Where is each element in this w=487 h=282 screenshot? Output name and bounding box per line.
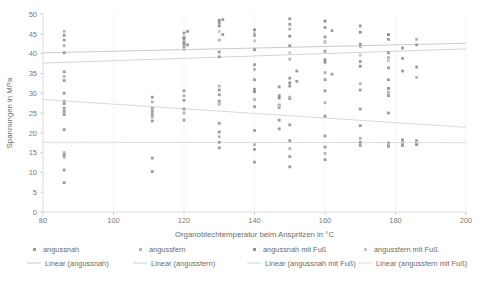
legend-marker-swatch <box>33 248 36 251</box>
data-point <box>387 94 390 97</box>
data-point <box>387 142 390 145</box>
data-point <box>359 45 362 48</box>
data-point <box>253 63 256 66</box>
data-point <box>218 103 221 106</box>
x-tick-labels: 80100120140160180200 <box>39 216 472 225</box>
data-point <box>401 141 404 144</box>
scatter-plot: 80100120140160180200 0510152025303540455… <box>0 0 487 282</box>
data-point <box>151 170 154 173</box>
data-point <box>401 57 404 60</box>
data-point <box>324 158 327 161</box>
data-point <box>288 28 291 31</box>
axis-lines <box>40 14 466 215</box>
series-angussfern <box>63 28 418 159</box>
data-point <box>218 131 221 134</box>
data-point <box>218 39 221 42</box>
data-point <box>63 92 66 95</box>
data-point <box>63 44 66 47</box>
data-point <box>359 24 362 27</box>
data-point <box>63 112 66 115</box>
data-point <box>415 141 418 144</box>
x-tick-label: 100 <box>107 216 120 225</box>
x-tick-label: 200 <box>460 216 473 225</box>
legend-item-line[interactable]: Linear (angussnah) <box>27 259 109 268</box>
data-point <box>288 35 291 38</box>
data-point <box>218 89 221 92</box>
legend-item-marker[interactable]: angussnah mit Fuß <box>253 245 327 254</box>
data-point <box>278 127 281 130</box>
data-point <box>359 31 362 34</box>
data-point <box>63 75 66 78</box>
data-point <box>218 19 221 22</box>
legend-item-marker[interactable]: angussnah <box>33 245 79 254</box>
series-angussnah-mit-fu- <box>183 19 418 145</box>
legend-item-line[interactable]: Linear (angussfern) <box>133 259 215 268</box>
data-point <box>359 89 362 92</box>
data-point <box>288 96 291 99</box>
legend-item-marker[interactable]: angussfern mit Fuß <box>364 245 438 254</box>
y-tick-label: 50 <box>29 10 37 19</box>
y-tick-label: 15 <box>29 148 37 157</box>
data-point <box>324 146 327 149</box>
data-point <box>387 66 390 69</box>
data-point <box>221 18 224 21</box>
data-point <box>288 51 291 54</box>
data-point <box>183 43 186 46</box>
data-point <box>324 152 327 155</box>
data-point <box>218 122 221 125</box>
data-point <box>63 169 66 172</box>
data-point <box>151 120 154 123</box>
data-point <box>218 24 221 27</box>
data-point <box>183 48 186 51</box>
data-point <box>63 39 66 42</box>
series-angussnah <box>63 17 418 184</box>
data-point <box>186 30 189 33</box>
data-point <box>331 73 334 76</box>
x-axis-title: Organoblechtemperatur beim Anspritzen in… <box>175 230 335 239</box>
data-point <box>278 85 281 88</box>
x-tick-label: 140 <box>248 216 261 225</box>
legend-line-label: Linear (angussfern) <box>151 259 215 268</box>
data-point <box>387 33 390 36</box>
data-point <box>253 90 256 93</box>
data-point <box>387 51 390 54</box>
data-point <box>387 78 390 81</box>
data-point <box>359 54 362 57</box>
data-point <box>278 104 281 107</box>
legend-marker-label: angussfern mit Fuß <box>374 245 438 254</box>
data-point <box>331 29 334 32</box>
y-tick-label: 10 <box>29 168 37 177</box>
y-tick-label: 25 <box>29 109 37 118</box>
data-point <box>359 108 362 111</box>
data-point <box>324 50 327 53</box>
data-point <box>183 32 186 35</box>
data-point <box>253 48 256 51</box>
legend-marker-swatch <box>253 248 256 251</box>
data-point <box>288 155 291 158</box>
legend-item-line[interactable]: Linear (angussnah mit Fuß) <box>247 259 356 268</box>
data-point <box>359 82 362 85</box>
data-point <box>324 89 327 92</box>
data-points-group <box>63 17 418 184</box>
data-point <box>253 68 256 71</box>
legend-marker-label: angussnah mit Fuß <box>263 245 327 254</box>
data-point <box>288 23 291 26</box>
data-point <box>324 41 327 44</box>
data-point <box>387 59 390 62</box>
data-point <box>415 66 418 69</box>
data-point <box>324 115 327 118</box>
legend-item-line[interactable]: Linear (angussfern mit Fuß) <box>358 259 467 268</box>
data-point <box>359 60 362 63</box>
legend-marker-swatch <box>139 248 142 251</box>
data-point <box>218 30 221 33</box>
data-point <box>387 87 390 90</box>
data-point <box>218 100 221 103</box>
legend-item-marker[interactable]: angussfern <box>139 245 186 254</box>
data-point <box>288 165 291 168</box>
data-point <box>295 80 298 83</box>
data-point <box>288 17 291 20</box>
data-point <box>324 135 327 138</box>
x-tick-label: 80 <box>39 216 47 225</box>
data-point <box>415 76 418 79</box>
data-point <box>387 56 390 59</box>
